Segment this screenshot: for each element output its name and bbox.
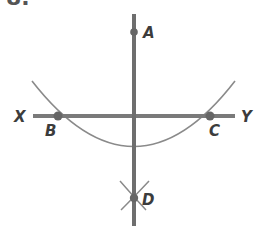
construction-diagram: 8. A B C D X Y <box>0 0 267 246</box>
point-d <box>130 194 138 202</box>
label-d: D <box>142 191 154 209</box>
point-c <box>206 112 215 121</box>
point-b <box>54 112 63 121</box>
label-c: C <box>209 122 220 140</box>
problem-number: 8. <box>6 0 30 10</box>
label-b: B <box>45 122 56 140</box>
label-a: A <box>142 24 155 42</box>
label-y: Y <box>241 108 254 126</box>
label-x: X <box>13 108 27 126</box>
point-a <box>130 28 138 36</box>
